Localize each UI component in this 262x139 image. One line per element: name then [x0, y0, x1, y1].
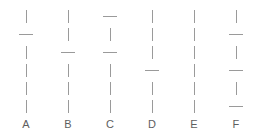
vertical-stroke-icon	[68, 10, 69, 23]
glyph-cell-b4	[47, 61, 89, 79]
vertical-stroke-icon	[236, 46, 237, 59]
glyph-cell-b5	[47, 79, 89, 97]
horizontal-stroke-icon	[103, 52, 117, 53]
glyph-column-e: E	[173, 0, 215, 139]
vertical-stroke-icon	[194, 10, 195, 23]
glyph-cell-d2	[131, 25, 173, 43]
horizontal-stroke-icon	[103, 16, 117, 17]
glyph-cell-d4	[131, 61, 173, 79]
column-label-e: E	[173, 118, 215, 131]
glyph-column-a: A	[5, 0, 47, 139]
glyph-cell-b2	[47, 25, 89, 43]
horizontal-stroke-icon	[145, 70, 159, 71]
glyph-cell-c4	[89, 61, 131, 79]
glyph-cell-e5	[173, 79, 215, 97]
glyph-cell-b1	[47, 7, 89, 25]
glyph-cell-e3	[173, 43, 215, 61]
vertical-stroke-icon	[26, 82, 27, 95]
column-label-b: B	[47, 118, 89, 131]
glyph-cell-c3	[89, 43, 131, 61]
horizontal-stroke-icon	[229, 70, 243, 71]
vertical-stroke-icon	[194, 82, 195, 95]
glyph-cell-a6	[5, 97, 47, 115]
glyph-cell-e1	[173, 7, 215, 25]
glyph-column-f: F	[215, 0, 257, 139]
horizontal-stroke-icon	[229, 34, 243, 35]
vertical-stroke-icon	[236, 82, 237, 95]
glyph-cell-f5	[215, 79, 257, 97]
vertical-stroke-icon	[194, 28, 195, 41]
vertical-stroke-icon	[152, 28, 153, 41]
horizontal-stroke-icon	[19, 34, 33, 35]
vertical-stroke-icon	[68, 100, 69, 113]
vertical-stroke-icon	[26, 10, 27, 23]
glyph-cell-b3	[47, 43, 89, 61]
glyph-column-d: D	[131, 0, 173, 139]
vertical-stroke-icon	[110, 28, 111, 41]
glyph-cell-c6	[89, 97, 131, 115]
glyph-cell-d5	[131, 79, 173, 97]
column-label-d: D	[131, 118, 173, 131]
vertical-stroke-icon	[236, 10, 237, 23]
glyph-cell-c1	[89, 7, 131, 25]
glyph-column-b: B	[47, 0, 89, 139]
glyph-cell-e2	[173, 25, 215, 43]
glyph-cell-f1	[215, 7, 257, 25]
glyph-cell-f4	[215, 61, 257, 79]
glyph-cell-a1	[5, 7, 47, 25]
glyph-cell-f6	[215, 97, 257, 115]
horizontal-stroke-icon	[229, 106, 243, 107]
glyph-cell-d3	[131, 43, 173, 61]
vertical-stroke-icon	[68, 64, 69, 77]
glyph-cell-f3	[215, 43, 257, 61]
glyph-cell-e4	[173, 61, 215, 79]
vertical-stroke-icon	[152, 82, 153, 95]
column-label-a: A	[5, 118, 47, 131]
vertical-stroke-icon	[26, 64, 27, 77]
glyph-cell-a5	[5, 79, 47, 97]
vertical-stroke-icon	[110, 64, 111, 77]
glyph-cell-a4	[5, 61, 47, 79]
vertical-stroke-icon	[194, 46, 195, 59]
glyph-cell-c2	[89, 25, 131, 43]
glyph-cell-a2	[5, 25, 47, 43]
vertical-stroke-icon	[26, 46, 27, 59]
vertical-stroke-icon	[194, 64, 195, 77]
vertical-stroke-icon	[68, 82, 69, 95]
glyph-column-c: C	[89, 0, 131, 139]
glyph-cell-a3	[5, 43, 47, 61]
vertical-stroke-icon	[194, 100, 195, 113]
glyph-cell-e6	[173, 97, 215, 115]
vertical-stroke-icon	[68, 28, 69, 41]
glyph-cell-c5	[89, 79, 131, 97]
glyph-grid: A B C D E	[0, 0, 262, 139]
vertical-stroke-icon	[110, 82, 111, 95]
horizontal-stroke-icon	[61, 52, 75, 53]
column-label-f: F	[215, 118, 257, 131]
vertical-stroke-icon	[26, 100, 27, 113]
glyph-cell-d6	[131, 97, 173, 115]
vertical-stroke-icon	[110, 100, 111, 113]
glyph-cell-f2	[215, 25, 257, 43]
vertical-stroke-icon	[152, 46, 153, 59]
glyph-cell-d1	[131, 7, 173, 25]
vertical-stroke-icon	[152, 100, 153, 113]
vertical-stroke-icon	[152, 10, 153, 23]
glyph-cell-b6	[47, 97, 89, 115]
column-label-c: C	[89, 118, 131, 131]
